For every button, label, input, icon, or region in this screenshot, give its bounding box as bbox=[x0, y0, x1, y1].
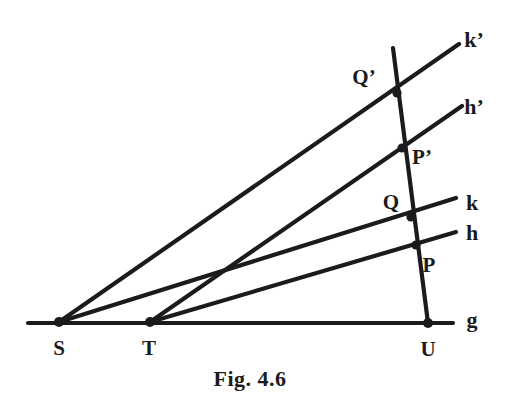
point-dot-S bbox=[54, 317, 64, 327]
point-label-S: S bbox=[53, 338, 65, 359]
line-k bbox=[59, 198, 456, 322]
geometry-diagram bbox=[0, 0, 515, 419]
point-label-P: P bbox=[423, 255, 436, 276]
point-dot-U bbox=[423, 318, 433, 328]
line-label-h: h bbox=[466, 222, 478, 244]
point-label-T: T bbox=[142, 338, 156, 359]
line-label-g: g bbox=[467, 309, 478, 331]
figure-container: S T U P Q P’ Q’ g h k h’ k’ Fig. 4.6 bbox=[0, 0, 515, 419]
point-dot-P-prime bbox=[397, 143, 406, 152]
figure-caption: Fig. 4.6 bbox=[213, 366, 286, 392]
point-label-U: U bbox=[420, 339, 435, 360]
point-dot-T bbox=[145, 317, 155, 327]
point-label-P-prime: P’ bbox=[412, 147, 432, 168]
line-label-k-prime: k’ bbox=[464, 29, 484, 51]
line-label-h-prime: h’ bbox=[464, 96, 484, 118]
point-dot-Q-prime bbox=[392, 88, 401, 97]
point-dot-Q bbox=[406, 212, 415, 221]
line-label-k: k bbox=[466, 192, 478, 214]
point-dot-P bbox=[411, 240, 420, 249]
point-label-Q-prime: Q’ bbox=[352, 67, 375, 88]
point-label-Q: Q bbox=[383, 192, 399, 213]
